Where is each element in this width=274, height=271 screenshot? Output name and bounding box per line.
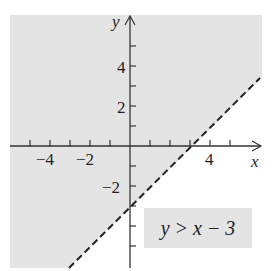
y-tick-label-4: 4	[117, 59, 126, 76]
inequality-label: y > x − 3	[144, 208, 252, 248]
y-axis-label: y	[112, 13, 120, 30]
y-tick-label-neg2: −2	[102, 179, 120, 196]
y-tick-label-2: 2	[117, 99, 126, 116]
inequality-text: y > x − 3	[161, 217, 236, 240]
x-tick-label-neg4: −4	[36, 151, 54, 168]
x-tick-label-4: 4	[205, 151, 214, 168]
x-tick-label-neg2: −2	[76, 151, 94, 168]
x-axis-label: x	[251, 153, 259, 170]
